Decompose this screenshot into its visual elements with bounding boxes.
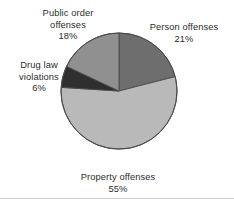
slice-label-drug-line1: Drug law — [6, 60, 72, 72]
figure-bottom-rule — [0, 198, 234, 199]
slice-label-person-offenses: Person offenses 21% — [138, 22, 230, 45]
slice-value-drug-law-violations: 6% — [6, 83, 72, 95]
slice-value-property-offenses: 55% — [56, 184, 180, 196]
slice-label-public-order-offenses: Public order offenses 18% — [26, 8, 110, 43]
slice-label-public-order-line2: offenses — [26, 20, 110, 32]
slice-value-person-offenses: 21% — [138, 34, 230, 46]
slice-label-drug-line2: violations — [6, 72, 72, 84]
pie-chart-figure: Public order offenses 18% Person offense… — [0, 0, 234, 204]
slice-label-person-line1: Person offenses — [138, 22, 230, 34]
slice-label-property-line1: Property offenses — [56, 172, 180, 184]
slice-label-property-offenses: Property offenses 55% — [56, 172, 180, 195]
slice-value-public-order-offenses: 18% — [26, 31, 110, 43]
slice-label-public-order-line1: Public order — [26, 8, 110, 20]
slice-label-drug-law-violations: Drug law violations 6% — [6, 60, 72, 95]
